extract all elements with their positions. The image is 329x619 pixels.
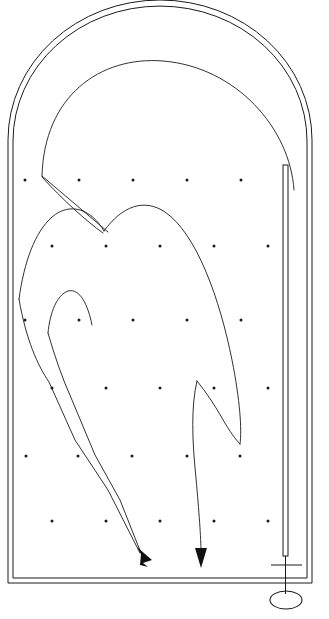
field-point-dot: [213, 245, 216, 248]
field-point-dot: [105, 387, 108, 390]
inner-dome-arc: [42, 61, 294, 190]
left-lobe-outer: [19, 209, 104, 299]
figure-canvas: [0, 0, 329, 619]
field-point-dot: [213, 387, 216, 390]
field-point-dot: [105, 245, 108, 248]
field-point-dot: [78, 179, 81, 182]
vertical-rod-assembly: [270, 165, 302, 609]
field-point-dot: [51, 387, 54, 390]
flux-arrow-left-icon: [137, 547, 152, 567]
main-descent-left: [19, 299, 140, 553]
field-point-dot: [186, 179, 189, 182]
field-point-dot: [51, 520, 54, 523]
field-point-dot: [213, 520, 216, 523]
enclosure-inner-wall: [13, 6, 307, 578]
field-point-dot: [132, 179, 135, 182]
field-point-dot: [267, 245, 270, 248]
rod-body: [283, 165, 288, 556]
arrowhead-group: [137, 547, 207, 568]
field-point-dot: [267, 387, 270, 390]
field-point-dot: [240, 179, 243, 182]
field-point-dot: [159, 245, 162, 248]
central-dome: [104, 205, 241, 444]
field-point-dot: [24, 319, 27, 322]
field-point-dot: [105, 520, 108, 523]
field-point-dot: [132, 319, 135, 322]
cusp-tail-upper: [42, 176, 108, 232]
arched-chamber-outline: [8, 0, 312, 583]
enclosure-outer-wall: [8, 0, 312, 583]
field-point-grid: [24, 179, 270, 523]
technical-line-drawing: [0, 0, 329, 619]
left-lobe-inner: [48, 291, 92, 333]
second-lobe-left: [48, 333, 141, 553]
flux-arrow-right-icon: [195, 548, 207, 568]
field-point-dot: [159, 520, 162, 523]
field-point-dot: [131, 455, 134, 458]
right-lobe-outer: [197, 381, 240, 444]
field-point-dot: [77, 455, 80, 458]
field-point-dot: [25, 455, 28, 458]
field-point-dot: [51, 245, 54, 248]
field-point-dot: [78, 319, 81, 322]
cusp-tail-lower: [42, 177, 103, 233]
right-descent: [193, 381, 201, 552]
field-point-dot: [186, 455, 189, 458]
field-point-dot: [240, 319, 243, 322]
field-point-dot: [239, 455, 242, 458]
field-point-dot: [159, 387, 162, 390]
field-point-dot: [267, 520, 270, 523]
field-point-dot: [186, 319, 189, 322]
flux-line-group: [19, 176, 241, 553]
field-point-dot: [24, 179, 27, 182]
